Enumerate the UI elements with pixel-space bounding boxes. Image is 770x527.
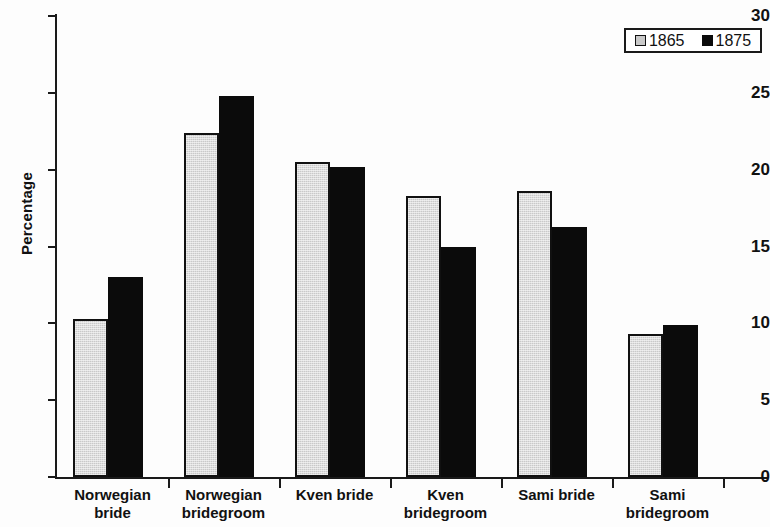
bar-1875-sami-bride xyxy=(552,227,587,477)
y-axis-tick-0 xyxy=(48,476,56,478)
x-axis-tick-6 xyxy=(723,479,725,488)
bar-1865-sami-bride xyxy=(517,191,552,477)
bar-1865-norwegian-bride xyxy=(73,319,108,477)
y-axis-tick-25 xyxy=(48,92,56,94)
y-axis-tick-label-15: 15 xyxy=(726,238,770,255)
x-axis-label-kven-bridegroom: Kvenbridegroom xyxy=(390,486,501,521)
legend-swatch-icon-1875 xyxy=(702,35,713,46)
chart-page: Percentage 051015202530 NorwegianbrideNo… xyxy=(0,0,770,527)
y-axis-tick-15 xyxy=(48,246,56,248)
y-axis-tick-label-0: 0 xyxy=(726,468,770,485)
y-axis-tick-label-5: 5 xyxy=(726,391,770,408)
y-axis-tick-label-10: 10 xyxy=(726,314,770,331)
bar-1865-kven-bridegroom xyxy=(406,196,441,477)
y-axis-tick-30 xyxy=(48,15,56,17)
x-axis-line xyxy=(55,477,768,479)
x-axis-label-line-2: bride xyxy=(57,504,168,522)
x-axis-label-line-1: Kven bride xyxy=(279,486,390,504)
x-axis-label-line-1: Sami bride xyxy=(501,486,612,504)
y-axis-tick-20 xyxy=(48,169,56,171)
x-axis-label-norwegian-bride: Norwegianbride xyxy=(57,486,168,521)
x-axis-label-norwegian-bridegroom: Norwegianbridegroom xyxy=(168,486,279,521)
legend-entry-1875: 1875 xyxy=(702,33,752,49)
bar-1875-sami-bridegroom xyxy=(663,325,698,477)
x-axis-label-sami-bride: Sami bride xyxy=(501,486,612,504)
bar-1875-norwegian-bridegroom xyxy=(219,96,254,477)
x-axis-label-sami-bridegroom: Samibridegroom xyxy=(612,486,723,521)
legend-entry-1865: 1865 xyxy=(635,33,685,49)
y-axis-tick-label-25: 25 xyxy=(726,84,770,101)
y-axis-tick-label-20: 20 xyxy=(726,161,770,178)
legend-label-1865: 1865 xyxy=(649,33,685,49)
x-axis-label-line-1: Sami xyxy=(612,486,723,504)
bar-1875-norwegian-bride xyxy=(108,277,143,477)
bar-1865-norwegian-bridegroom xyxy=(184,133,219,477)
legend-label-1875: 1875 xyxy=(716,33,752,49)
x-axis-label-kven-bride: Kven bride xyxy=(279,486,390,504)
chart-legend: 1865 1875 xyxy=(624,28,762,53)
x-axis-label-line-1: Norwegian xyxy=(57,486,168,504)
bar-1875-kven-bride xyxy=(330,167,365,477)
x-axis-label-line-2: bridegroom xyxy=(390,504,501,522)
bar-1875-kven-bridegroom xyxy=(441,247,476,478)
bar-1865-kven-bride xyxy=(295,162,330,477)
x-axis-label-line-1: Norwegian xyxy=(168,486,279,504)
bar-chart-plot-area: Percentage 051015202530 NorwegianbrideNo… xyxy=(0,0,770,527)
x-axis-label-line-2: bridegroom xyxy=(612,504,723,522)
legend-swatch-icon-1865 xyxy=(635,35,646,46)
y-axis-title: Percentage xyxy=(18,144,35,284)
x-axis-label-line-1: Kven xyxy=(390,486,501,504)
x-axis-label-line-2: bridegroom xyxy=(168,504,279,522)
bar-1865-sami-bridegroom xyxy=(628,334,663,477)
y-axis-tick-10 xyxy=(48,322,56,324)
y-axis-tick-5 xyxy=(48,399,56,401)
y-axis-tick-label-30: 30 xyxy=(726,7,770,24)
